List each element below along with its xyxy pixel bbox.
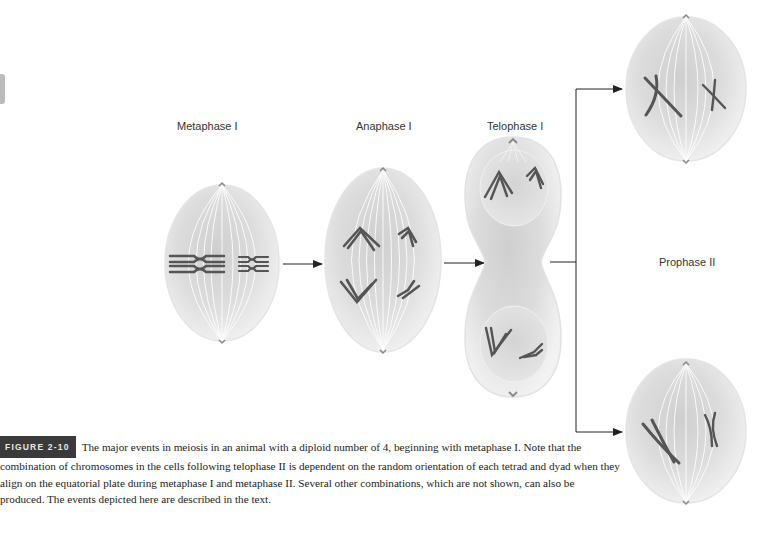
branch-connector	[550, 89, 622, 432]
label-prophase-2: Prophase II	[659, 256, 715, 268]
label-anaphase-1: Anaphase I	[356, 120, 412, 132]
figure-badge: FIGURE 2-10	[0, 436, 76, 458]
telophase-1-cell	[465, 137, 561, 397]
metaphase-1-cell	[165, 183, 279, 343]
label-telophase-1: Telophase I	[487, 120, 543, 132]
prophase-2-cell-bottom	[626, 359, 746, 504]
caption-text: The major events in meiosis in an animal…	[0, 441, 620, 505]
label-metaphase-1: Metaphase I	[177, 120, 238, 132]
prophase-2-cell-top	[626, 15, 746, 163]
anaphase-1-cell	[325, 168, 441, 353]
figure-caption: FIGURE 2-10The major events in meiosis i…	[0, 436, 620, 508]
